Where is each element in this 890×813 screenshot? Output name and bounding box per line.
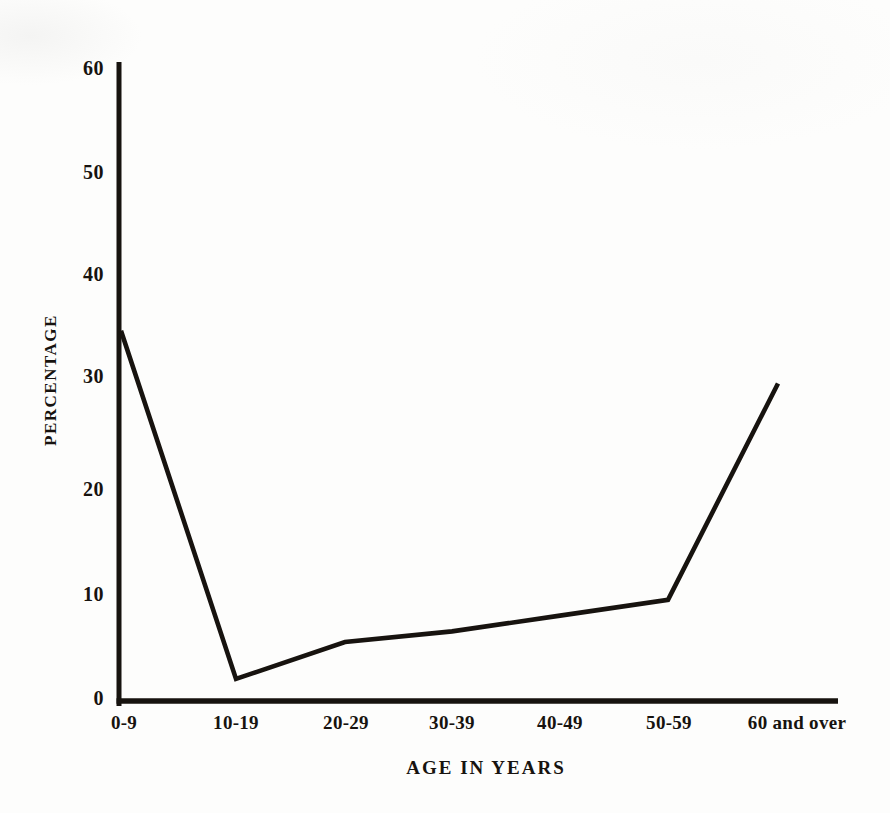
y-tick-label: 0 — [36, 686, 104, 710]
scanned-page: PERCENTAGE AGE IN YEARS 60 50 40 30 20 1… — [0, 0, 890, 813]
y-tick-label: 10 — [36, 582, 104, 606]
x-tick-label: 60 and over — [737, 711, 857, 735]
y-tick-label: 30 — [36, 364, 104, 388]
x-tick-label: 10-19 — [196, 711, 276, 735]
y-tick-label: 40 — [36, 262, 104, 286]
chart-canvas — [0, 0, 890, 813]
x-tick-label: 50-59 — [629, 711, 709, 735]
x-tick-label: 0-9 — [84, 711, 164, 735]
x-tick-label: 40-49 — [520, 711, 600, 735]
data-line — [121, 331, 778, 679]
y-tick-label: 50 — [36, 160, 104, 184]
y-tick-label: 20 — [36, 477, 104, 501]
x-axis-title: AGE IN YEARS — [406, 757, 566, 779]
x-tick-label: 30-39 — [412, 711, 492, 735]
y-tick-label: 60 — [36, 56, 104, 80]
x-tick-label: 20-29 — [306, 711, 386, 735]
